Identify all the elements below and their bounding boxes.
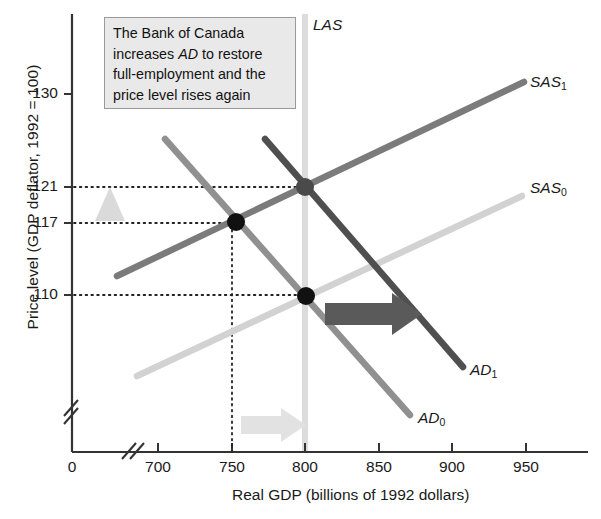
ad0-label: AD0	[418, 409, 445, 427]
sas1-label-text: SAS	[530, 73, 561, 90]
callout-line-4: price level rises again	[113, 85, 287, 106]
callout-line-1: The Bank of Canada	[113, 23, 287, 44]
sas0-label-sub: 0	[561, 186, 567, 198]
y-axis-title-text: Price level (GDP deflator, 1992 = 100)	[24, 65, 42, 330]
callout-line-2: increases AD to restore	[113, 44, 287, 65]
gdp-gap-arrow	[241, 408, 306, 442]
x-tick-label-900: 900	[422, 458, 482, 476]
x-tick-label-0: 0	[52, 458, 92, 476]
point-recession-equilibrium	[227, 213, 245, 231]
sas0-label-text: SAS	[530, 179, 561, 196]
callout-text-3: full-employment and the	[113, 66, 266, 82]
chart-figure: The Bank of Canada increases AD to resto…	[0, 0, 601, 519]
callout-box: The Bank of Canada increases AD to resto…	[104, 17, 296, 109]
sas1-curve	[117, 82, 524, 276]
sas0-curve	[137, 196, 522, 376]
callout-text-1: The Bank of Canada	[113, 25, 244, 41]
ad1-curve	[265, 139, 463, 367]
ad0-label-sub: 0	[440, 416, 446, 428]
y-axis-title: Price level (GDP deflator, 1992 = 100)	[21, 32, 45, 362]
y-tick-marks	[64, 94, 72, 295]
x-tick-label-750: 750	[202, 458, 262, 476]
x-tick-marks	[158, 443, 526, 452]
sas0-label: SAS0	[530, 179, 567, 197]
callout-line-3: full-employment and the	[113, 64, 287, 85]
x-axis-title: Real GDP (billions of 1992 dollars)	[232, 486, 592, 504]
callout-text-2b: to restore	[198, 46, 262, 62]
x-tick-label-950: 950	[496, 458, 556, 476]
ad1-label-text: AD	[470, 361, 492, 378]
ad0-curve	[165, 139, 410, 415]
chart-canvas	[0, 0, 601, 519]
ad1-label: AD1	[470, 361, 497, 379]
sas1-label: SAS1	[530, 73, 567, 91]
ad0-label-text: AD	[418, 409, 440, 426]
x-tick-label-700: 700	[128, 458, 188, 476]
guide-lines	[74, 187, 305, 452]
x-tick-label-800: 800	[275, 458, 335, 476]
point-initial-equilibrium	[297, 287, 315, 305]
ad1-label-sub: 1	[492, 368, 498, 380]
las-label: LAS	[313, 16, 342, 34]
sas1-label-sub: 1	[561, 80, 567, 92]
point-new-equilibrium	[296, 178, 314, 196]
x-tick-label-850: 850	[349, 458, 409, 476]
price-rise-arrow	[95, 187, 125, 221]
x-axis-title-text: Real GDP (billions of 1992 dollars)	[232, 486, 470, 503]
callout-text-4: price level rises again	[113, 87, 250, 103]
callout-text-2a: increases	[113, 46, 178, 62]
callout-emphasis-ad: AD	[178, 46, 198, 62]
las-label-text: LAS	[313, 16, 342, 33]
